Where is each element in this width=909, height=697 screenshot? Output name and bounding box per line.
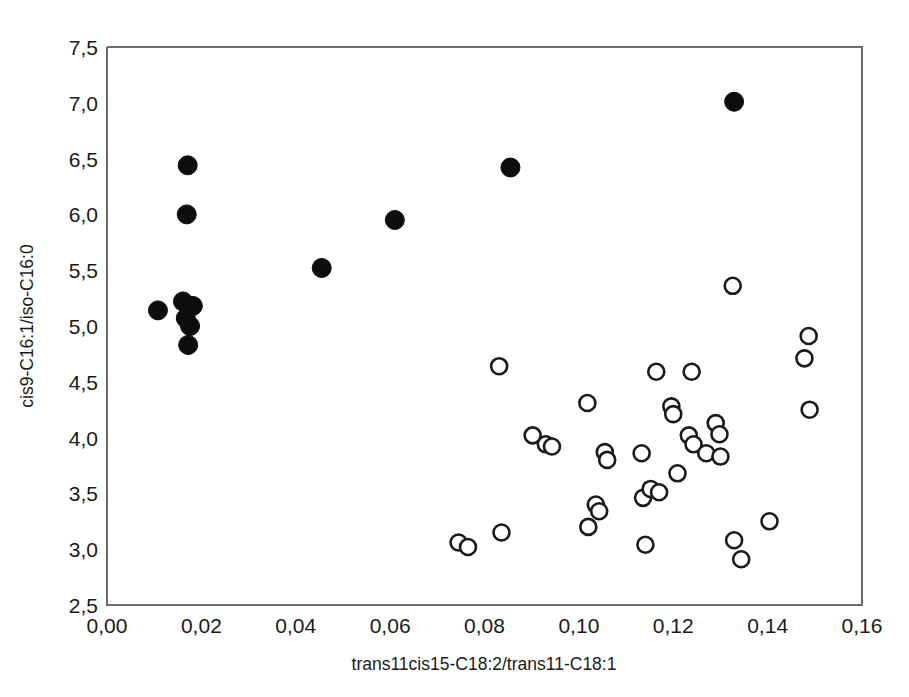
data-point-open [712, 449, 728, 465]
x-tick-label: 0,14 [747, 614, 788, 637]
x-tick-label: 0,04 [275, 614, 316, 637]
data-point-filled [148, 301, 167, 320]
data-point-filled [179, 335, 198, 354]
x-tick-label: 0,12 [653, 614, 694, 637]
plot-frame [107, 47, 862, 605]
data-point-open [579, 395, 595, 411]
data-point-filled [178, 156, 197, 175]
data-point-open [796, 350, 812, 366]
data-point-open [726, 532, 742, 548]
data-point-open [802, 402, 818, 418]
data-point-open [733, 551, 749, 567]
plot-canvas: 0,000,020,040,060,080,100,120,140,16 2,5… [0, 0, 909, 697]
x-tick-label: 0,00 [87, 614, 128, 637]
data-point-open [591, 503, 607, 519]
x-tick-label: 0,06 [370, 614, 411, 637]
x-axis-title: trans11cis15-C18:2/trans11-C18:1 [352, 654, 617, 674]
data-point-open [493, 524, 509, 540]
data-point-open [684, 364, 700, 380]
y-tick-label: 4,0 [69, 427, 98, 450]
x-axis-tick-labels: 0,000,020,040,060,080,100,120,140,16 [87, 614, 883, 637]
y-tick-label: 3,5 [69, 482, 98, 505]
data-point-open [725, 278, 741, 294]
data-point-open [637, 537, 653, 553]
data-point-open [801, 328, 817, 344]
x-tick-label: 0,16 [842, 614, 883, 637]
data-point-open [460, 539, 476, 555]
scatter-plot-figure: 0,000,020,040,060,080,100,120,140,16 2,5… [0, 0, 909, 697]
y-tick-label: 4,5 [69, 371, 98, 394]
data-points [148, 92, 817, 567]
data-point-open [762, 513, 778, 529]
y-tick-label: 7,0 [69, 92, 98, 115]
x-tick-label: 0,08 [464, 614, 505, 637]
data-point-open [580, 519, 596, 535]
data-point-open [651, 484, 667, 500]
data-point-open [670, 465, 686, 481]
y-axis-title: cis9-C16:1/iso-C16:0 [17, 244, 37, 408]
data-point-open [711, 426, 727, 442]
x-tick-label: 0,02 [181, 614, 222, 637]
data-point-filled [385, 210, 404, 229]
y-tick-label: 6,5 [69, 148, 98, 171]
y-tick-label: 7,5 [69, 36, 98, 59]
y-tick-label: 2,5 [69, 594, 98, 617]
data-point-filled [177, 205, 196, 224]
y-tick-label: 3,0 [69, 538, 98, 561]
data-point-filled [725, 92, 744, 111]
y-tick-label: 5,0 [69, 315, 98, 338]
data-point-open [599, 452, 615, 468]
data-point-open [491, 358, 507, 374]
data-point-open [665, 406, 681, 422]
data-point-filled [312, 258, 331, 277]
y-tick-label: 6,0 [69, 203, 98, 226]
data-point-open [648, 364, 664, 380]
data-point-open [634, 445, 650, 461]
x-tick-label: 0,10 [558, 614, 599, 637]
data-point-filled [501, 158, 520, 177]
y-tick-label: 5,5 [69, 259, 98, 282]
data-point-filled [181, 317, 200, 336]
data-point-open [544, 439, 560, 455]
y-axis-tick-labels: 2,53,03,54,04,55,05,56,06,57,07,5 [69, 36, 98, 617]
